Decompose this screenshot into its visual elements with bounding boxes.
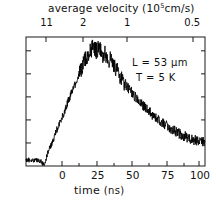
plot-canvas bbox=[0, 0, 216, 203]
axes-frame bbox=[26, 37, 205, 166]
figure-panel: average velocity (105cm/s) 11210.5 02550… bbox=[0, 0, 216, 203]
data-trace-intensity bbox=[26, 40, 205, 165]
axis-ticks bbox=[26, 37, 205, 166]
